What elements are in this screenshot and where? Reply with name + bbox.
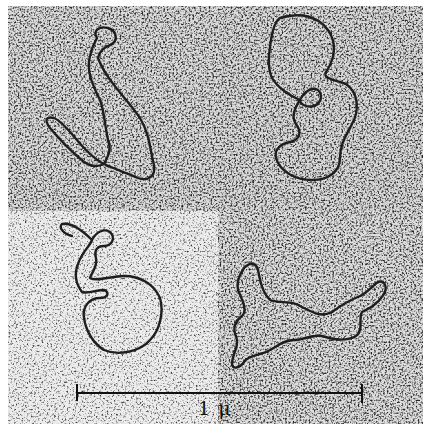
panel-top-left-grain (8, 6, 218, 211)
panel-grain (8, 6, 423, 424)
micrograph-figure (0, 0, 431, 433)
scale-bar-label: 1 μ (198, 397, 231, 419)
